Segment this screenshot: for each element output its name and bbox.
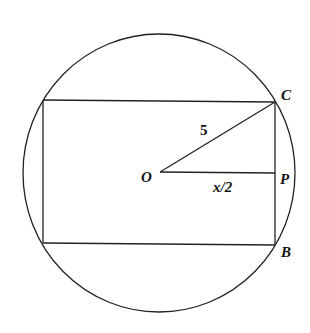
point-label-B: B <box>280 244 291 260</box>
geometry-diagram: C P B O 5 x/2 <box>0 0 310 333</box>
segment-label-OC: 5 <box>200 122 208 138</box>
point-label-P: P <box>280 171 290 187</box>
rectangle-top-edge <box>43 100 275 102</box>
segment-OC-radius <box>160 102 275 172</box>
point-label-C: C <box>281 87 292 103</box>
segment-label-OP: x/2 <box>212 179 233 195</box>
point-label-O: O <box>141 169 152 185</box>
rectangle-bottom-edge <box>43 243 275 245</box>
segment-OP <box>160 172 275 173</box>
